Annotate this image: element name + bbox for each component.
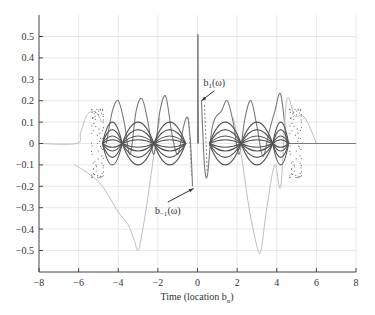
scatter-dot xyxy=(290,118,291,119)
x-tick-label: 2 xyxy=(235,277,240,288)
scatter-dot xyxy=(290,112,291,113)
scatter-dot xyxy=(94,174,95,175)
scatter-dot xyxy=(102,130,103,131)
y-tick-label: 0.3 xyxy=(22,74,35,85)
scatter-dot xyxy=(98,150,99,151)
x-tick-label: −6 xyxy=(73,277,84,288)
scatter-dot xyxy=(298,176,299,177)
x-tick-label: 0 xyxy=(195,277,200,288)
y-tick-label: 0.1 xyxy=(22,117,35,128)
chart: −8−6−4−202468 0.50.40.30.20.10−0.1−0.2−0… xyxy=(0,0,375,315)
scatter-dot xyxy=(102,122,103,123)
scatter-dot xyxy=(97,143,98,144)
scatter-dot xyxy=(291,123,292,124)
scatter-dot xyxy=(101,147,102,148)
scatter-dot xyxy=(292,161,293,162)
scatter-dot xyxy=(102,167,103,168)
scatter-dot xyxy=(101,155,102,156)
x-axis-ticks: −8−6−4−202468 xyxy=(34,268,359,288)
scatter-dot xyxy=(103,171,104,172)
scatter-dot xyxy=(295,175,296,176)
x-tick-label: −8 xyxy=(34,277,45,288)
scatter-dot xyxy=(300,110,301,111)
scatter-dot xyxy=(103,127,104,128)
scatter-dot xyxy=(297,141,298,142)
scatter-dot xyxy=(301,175,302,176)
scatter-dot xyxy=(93,123,94,124)
scatter-dot xyxy=(297,133,298,134)
scatter-dot xyxy=(295,143,296,144)
scatter-dot xyxy=(97,177,98,178)
scatter-dot xyxy=(301,116,302,117)
scatter-dot xyxy=(298,109,299,110)
scatter-dot xyxy=(289,125,290,126)
scatter-dot xyxy=(291,168,292,169)
scatter-dot xyxy=(102,109,103,110)
scatter-dot xyxy=(98,114,99,115)
scatter-dot xyxy=(297,177,298,178)
scatter-dot xyxy=(93,168,94,169)
y-tick-label: −0.2 xyxy=(16,181,34,192)
scatter-dot xyxy=(300,149,301,150)
scatter-dot xyxy=(101,176,102,177)
x-axis-label: Time (location bn) xyxy=(160,291,233,305)
scatter-dot xyxy=(300,167,301,168)
scatter-dot xyxy=(294,166,295,167)
scatter-dot xyxy=(92,154,93,155)
scatter-dot xyxy=(94,113,95,114)
scatter-dot xyxy=(289,142,290,143)
scatter-dot xyxy=(292,113,293,114)
x-tick-label: −2 xyxy=(153,277,164,288)
scatter-dot xyxy=(100,146,101,147)
scatter-dot xyxy=(102,138,103,139)
scatter-dot xyxy=(97,158,98,159)
scatter-dot xyxy=(291,130,292,131)
scatter-dot xyxy=(99,141,100,142)
scatter-dot xyxy=(101,112,102,113)
scatter-dot xyxy=(94,161,95,162)
x-tick-label: 4 xyxy=(274,277,279,288)
scatter-dot xyxy=(301,158,302,159)
scatter-dot xyxy=(92,145,93,146)
scatter-dot xyxy=(102,110,103,111)
scatter-dot xyxy=(300,138,301,139)
scatter-dot xyxy=(290,154,291,155)
x-tick-label: 8 xyxy=(354,277,359,288)
scatter-dot xyxy=(290,176,291,177)
scatter-dot xyxy=(100,137,101,138)
scatter-dot xyxy=(103,175,104,176)
scatter-dot xyxy=(289,109,290,110)
series-line xyxy=(233,97,316,253)
scatter-dot xyxy=(98,111,99,112)
annotation-label: b−1(ω) xyxy=(155,205,181,218)
scatter-dot xyxy=(102,173,103,174)
scatter-dot xyxy=(99,133,100,134)
scatter-dot xyxy=(296,150,297,151)
scatter-dot xyxy=(296,111,297,112)
scatter-dot xyxy=(297,128,298,129)
scatter-dot xyxy=(100,109,101,110)
scatter-dot xyxy=(103,116,104,117)
scatter-dot xyxy=(91,125,92,126)
scatter-dot xyxy=(301,119,302,120)
scatter-dot xyxy=(290,145,291,146)
scatter-dot xyxy=(91,109,92,110)
scatter-dot xyxy=(299,112,300,113)
x-tick-label: 6 xyxy=(314,277,319,288)
scatter-dot xyxy=(91,133,92,134)
scatter-dot xyxy=(96,170,97,171)
scatter-dot xyxy=(93,162,94,163)
scatter-dot xyxy=(293,119,294,120)
scatter-dot xyxy=(300,109,301,110)
scatter-dot xyxy=(291,173,292,174)
x-tick-label: −4 xyxy=(113,277,124,288)
scatter-dot xyxy=(97,175,98,176)
scatter-dot xyxy=(298,146,299,147)
y-tick-label: −0.3 xyxy=(16,202,34,213)
scatter-dot xyxy=(296,114,297,115)
scatter-dot xyxy=(91,142,92,143)
scatter-dot xyxy=(96,109,97,110)
scatter-dot xyxy=(97,135,98,136)
y-tick-label: 0.5 xyxy=(22,31,35,42)
scatter-dot xyxy=(295,177,296,178)
